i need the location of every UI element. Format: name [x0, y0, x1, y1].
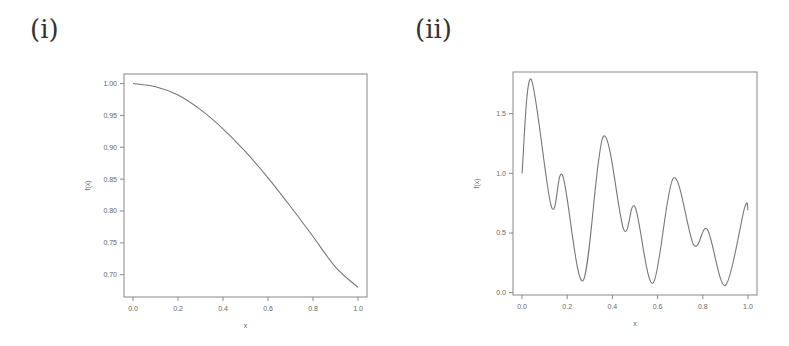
- x-axis-label: x: [633, 320, 637, 327]
- y-tick-label: 0.5: [496, 229, 506, 236]
- x-tick-label: 0.6: [653, 303, 663, 310]
- x-tick-label: 0.0: [517, 303, 527, 310]
- chart-i: 0.00.20.40.60.81.00.700.750.800.850.900.…: [84, 74, 367, 329]
- data-curve: [133, 84, 358, 288]
- x-tick-label: 1.0: [743, 303, 753, 310]
- x-tick-label: 0.8: [698, 303, 708, 310]
- plots-canvas: 0.00.20.40.60.81.00.700.750.800.850.900.…: [0, 0, 789, 346]
- y-tick-label: 0.90: [103, 144, 117, 151]
- x-tick-label: 0.8: [308, 305, 318, 312]
- x-tick-label: 0.4: [608, 303, 618, 310]
- x-tick-label: 0.0: [128, 305, 138, 312]
- y-tick-label: 0.75: [103, 239, 117, 246]
- plot-frame: [124, 74, 367, 297]
- y-tick-label: 0.0: [496, 289, 506, 296]
- x-tick-label: 0.2: [562, 303, 572, 310]
- x-tick-label: 1.0: [353, 305, 363, 312]
- y-tick-label: 1.5: [496, 110, 506, 117]
- y-tick-label: 0.95: [103, 112, 117, 119]
- y-tick-label: 0.80: [103, 207, 117, 214]
- y-tick-label: 0.85: [103, 176, 117, 183]
- y-tick-label: 1.0: [496, 170, 506, 177]
- data-curve: [522, 79, 748, 286]
- x-tick-label: 0.4: [218, 305, 228, 312]
- y-tick-label: 1.00: [103, 80, 117, 87]
- y-tick-label: 0.70: [103, 271, 117, 278]
- plot-frame: [513, 72, 757, 295]
- chart-ii: 0.00.20.40.60.81.00.00.51.01.5xf(x): [473, 72, 757, 327]
- x-axis-label: x: [244, 322, 248, 329]
- y-axis-label: f(x): [473, 178, 481, 188]
- y-axis-label: f(x): [84, 180, 92, 190]
- x-tick-label: 0.6: [263, 305, 273, 312]
- x-tick-label: 0.2: [173, 305, 183, 312]
